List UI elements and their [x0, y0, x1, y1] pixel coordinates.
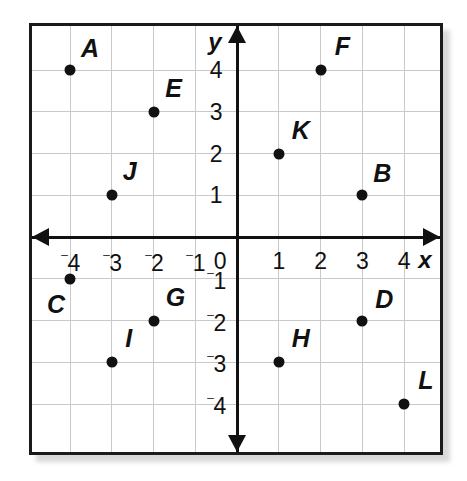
data-point-a[interactable]: [65, 65, 76, 76]
tick-digit: 3: [356, 248, 368, 274]
x-axis-arrow-right: [423, 228, 440, 246]
data-point-label-e: E: [165, 75, 182, 100]
tick-digit: 4: [68, 250, 80, 276]
x-axis-tick-label: 1: [273, 250, 285, 273]
data-point-label-b: B: [373, 161, 391, 186]
y-axis-tick-label: ⁻4: [206, 390, 226, 418]
data-point-label-g: G: [166, 284, 185, 309]
data-point-label-k: K: [292, 117, 310, 142]
data-point-h[interactable]: [273, 357, 284, 368]
x-axis-tick-label: 2: [314, 250, 326, 273]
x-axis-tick-label: ⁻3: [102, 247, 122, 275]
data-point-label-c: C: [47, 291, 65, 316]
data-point-e[interactable]: [148, 106, 159, 117]
tick-digit: 2: [314, 248, 326, 274]
y-axis-name-label: y: [208, 30, 221, 54]
tick-digit: 3: [109, 250, 121, 276]
origin-tick-label: 0: [214, 250, 226, 273]
data-point-label-d: D: [375, 286, 393, 311]
tick-digit: 4: [398, 248, 410, 274]
tick-digit: 4: [210, 57, 222, 83]
plot-area: ⁻4⁻3⁻2⁻112344321⁻1⁻2⁻3⁻40xyABCDEFGHIJKL: [32, 26, 440, 452]
tick-digit: 2: [151, 250, 163, 276]
data-point-i[interactable]: [106, 357, 117, 368]
data-point-b[interactable]: [357, 190, 368, 201]
tick-digit: 1: [210, 182, 222, 208]
gridline-vertical: [195, 26, 196, 452]
data-point-c[interactable]: [65, 273, 76, 284]
data-point-d[interactable]: [357, 315, 368, 326]
x-axis-tick-label: 4: [398, 250, 410, 273]
y-axis-tick-label: 1: [210, 184, 222, 207]
data-point-label-j: J: [123, 159, 137, 184]
gridline-vertical: [362, 26, 363, 452]
data-point-j[interactable]: [106, 190, 117, 201]
plot-frame: ⁻4⁻3⁻2⁻112344321⁻1⁻2⁻3⁻40xyABCDEFGHIJKL: [29, 23, 443, 455]
y-axis-arrow-up: [228, 26, 246, 43]
data-point-label-l: L: [418, 368, 433, 393]
data-point-label-f: F: [335, 34, 350, 59]
gridline-vertical: [70, 26, 71, 452]
x-axis-tick-label: ⁻4: [60, 247, 80, 275]
x-axis-tick-label: ⁻2: [144, 247, 164, 275]
tick-digit: 4: [214, 393, 226, 419]
y-axis-tick-label: 2: [210, 142, 222, 165]
x-axis-tick-label: ⁻1: [185, 247, 205, 275]
data-point-l[interactable]: [399, 399, 410, 410]
gridline-vertical: [278, 26, 279, 452]
gridline-vertical: [404, 26, 405, 452]
tick-digit: 1: [273, 248, 285, 274]
data-point-label-a: A: [81, 36, 99, 61]
x-axis-tick-label: 3: [356, 250, 368, 273]
gridline-vertical: [320, 26, 321, 452]
tick-digit: 3: [214, 351, 226, 377]
y-axis-tick-label: ⁻2: [206, 307, 226, 335]
y-axis-line: [236, 26, 239, 452]
x-axis-arrow-left: [32, 228, 49, 246]
y-axis-tick-label: 3: [210, 100, 222, 123]
data-point-g[interactable]: [148, 315, 159, 326]
y-axis-tick-label: 4: [210, 59, 222, 82]
coordinate-plane-figure: ⁻4⁻3⁻2⁻112344321⁻1⁻2⁻3⁻40xyABCDEFGHIJKL: [0, 0, 467, 481]
data-point-label-i: I: [125, 326, 132, 351]
y-axis-tick-label: ⁻3: [206, 348, 226, 376]
data-point-k[interactable]: [273, 148, 284, 159]
gridline-vertical: [153, 26, 154, 452]
data-point-f[interactable]: [315, 65, 326, 76]
tick-digit: 3: [210, 98, 222, 124]
tick-digit: 2: [210, 140, 222, 166]
tick-digit: 2: [214, 310, 226, 336]
tick-digit: 1: [193, 250, 205, 276]
y-axis-arrow-down: [228, 435, 246, 452]
data-point-label-h: H: [292, 326, 310, 351]
x-axis-name-label: x: [418, 248, 431, 272]
gridline-vertical: [111, 26, 112, 452]
